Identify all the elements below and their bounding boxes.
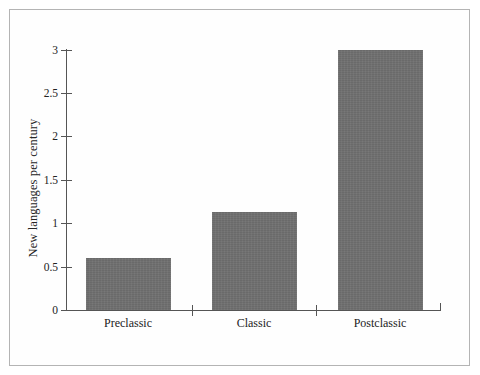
y-tick-label-2-wrap: 1 xyxy=(10,218,58,229)
x-tick-label-preclassic: Preclassic xyxy=(78,316,178,331)
y-tick-mark-3 xyxy=(61,180,72,181)
x-tick-label-postclassic: Postclassic xyxy=(330,316,430,331)
x-separator-tick-2 xyxy=(316,305,317,316)
bar-preclassic[interactable] xyxy=(86,258,171,310)
y-tick-label-1-wrap: 0.5 xyxy=(10,262,58,273)
y-tick-mark-5 xyxy=(61,93,72,94)
bar-classic[interactable] xyxy=(212,212,297,310)
bar-chart-figure: New languages per century 0 0.5 1 1.5 2 … xyxy=(0,0,480,375)
y-tick-label-5-wrap: 2.5 xyxy=(10,88,58,99)
y-tick-label-0: 0 xyxy=(12,305,58,316)
y-tick-label-4-wrap: 2 xyxy=(10,131,58,142)
y-tick-label-6-wrap: 3 xyxy=(10,45,58,56)
y-tick-label-0_5: 0.5 xyxy=(12,262,58,273)
y-tick-mark-2 xyxy=(61,223,72,224)
y-tick-label-3: 3 xyxy=(12,45,58,56)
y-tick-mark-6 xyxy=(61,50,72,51)
y-tick-mark-0 xyxy=(61,310,72,311)
y-tick-label-2: 2 xyxy=(12,131,58,142)
y-tick-label-0-wrap: 0 xyxy=(10,305,58,316)
x-separator-tick-1 xyxy=(192,305,193,316)
y-tick-label-2_5: 2.5 xyxy=(12,88,58,99)
y-tick-label-1: 1 xyxy=(12,218,58,229)
y-tick-label-1_5: 1.5 xyxy=(12,175,58,186)
y-tick-label-3-wrap: 1.5 xyxy=(10,175,58,186)
x-axis-end-tick xyxy=(440,303,441,311)
x-tick-label-classic: Classic xyxy=(204,316,304,331)
y-tick-mark-4 xyxy=(61,136,72,137)
bar-postclassic[interactable] xyxy=(338,50,423,310)
y-tick-mark-1 xyxy=(61,267,72,268)
x-axis-line xyxy=(66,310,441,311)
